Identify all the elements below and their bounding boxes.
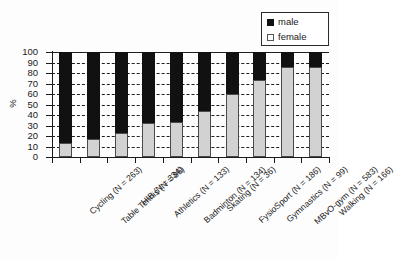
y-axis-tick-label: 30: [27, 121, 38, 130]
y-axis-tick-label: 0: [33, 152, 38, 161]
legend-item-female: female: [267, 30, 328, 44]
y-axis-tick-label: 100: [22, 47, 38, 56]
x-axis-tick: [218, 157, 219, 163]
x-axis-tick: [301, 157, 302, 163]
legend-swatch-male-icon: [267, 19, 274, 26]
legend-label-female: female: [278, 32, 307, 42]
x-axis-tick: [329, 157, 330, 163]
bar-5: [198, 52, 211, 157]
bar-1: [87, 52, 100, 157]
bar-2: [115, 52, 128, 157]
y-axis-tick-label: 80: [27, 68, 38, 77]
y-axis-tick: [46, 105, 52, 106]
y-axis-tick: [46, 63, 52, 64]
bar-segment-female: [59, 143, 72, 157]
y-axis-tick-label: 90: [27, 58, 38, 67]
y-axis-tick: [46, 94, 52, 95]
x-axis-tick: [107, 157, 108, 163]
chart-legend: male female: [261, 12, 329, 46]
bar-3: [142, 52, 155, 157]
legend-swatch-female-icon: [267, 34, 274, 41]
y-axis-tick-label: 10: [27, 142, 38, 151]
bar-9: [309, 52, 322, 157]
bar-6: [226, 52, 239, 157]
bar-segment-male: [281, 52, 294, 67]
x-axis-tick: [246, 157, 247, 163]
bar-segment-female: [281, 67, 294, 157]
bar-segment-male: [115, 52, 128, 133]
bar-segment-male: [309, 52, 322, 67]
plot-area: [52, 52, 329, 157]
y-axis-tick-label: 20: [27, 131, 38, 140]
y-axis-tick: [46, 52, 52, 53]
bar-7: [253, 52, 266, 157]
x-axis-tick: [191, 157, 192, 163]
bar-segment-male: [253, 52, 266, 80]
x-axis-label: HIB (N = 334): [140, 165, 185, 207]
plot-inner: [52, 52, 329, 157]
bar-segment-male: [59, 52, 72, 143]
x-axis-tick: [163, 157, 164, 163]
x-axis-tick: [135, 157, 136, 163]
bar-8: [281, 52, 294, 157]
bar-segment-female: [309, 67, 322, 157]
bar-segment-female: [253, 80, 266, 157]
bar-segment-female: [142, 123, 155, 157]
y-axis-tick-label: 40: [27, 110, 38, 119]
y-axis-tick: [46, 147, 52, 148]
bar-0: [59, 52, 72, 157]
legend-label-male: male: [278, 17, 299, 27]
y-axis-tick: [46, 136, 52, 137]
bar-segment-female: [87, 139, 100, 157]
bar-segment-male: [170, 52, 183, 122]
y-axis-tick-label: 50: [27, 100, 38, 109]
x-axis-tick: [52, 157, 53, 163]
y-axis-tick: [46, 73, 52, 74]
bar-segment-male: [226, 52, 239, 94]
bar-segment-female: [226, 94, 239, 157]
bar-segment-male: [198, 52, 211, 111]
bar-segment-male: [142, 52, 155, 123]
bar-segment-male: [87, 52, 100, 139]
y-axis-tick-label: 70: [27, 79, 38, 88]
x-axis-tick: [80, 157, 81, 163]
y-axis-tick-labels: 0102030405060708090100: [0, 0, 46, 259]
y-axis-tick-label: 60: [27, 89, 38, 98]
x-axis-tick: [274, 157, 275, 163]
bar-segment-female: [198, 111, 211, 157]
bar-4: [170, 52, 183, 157]
y-axis-tick: [46, 84, 52, 85]
y-axis-tick: [46, 115, 52, 116]
bar-segment-female: [115, 133, 128, 157]
legend-item-male: male: [267, 15, 328, 29]
y-axis-tick: [46, 126, 52, 127]
bar-segment-female: [170, 122, 183, 157]
